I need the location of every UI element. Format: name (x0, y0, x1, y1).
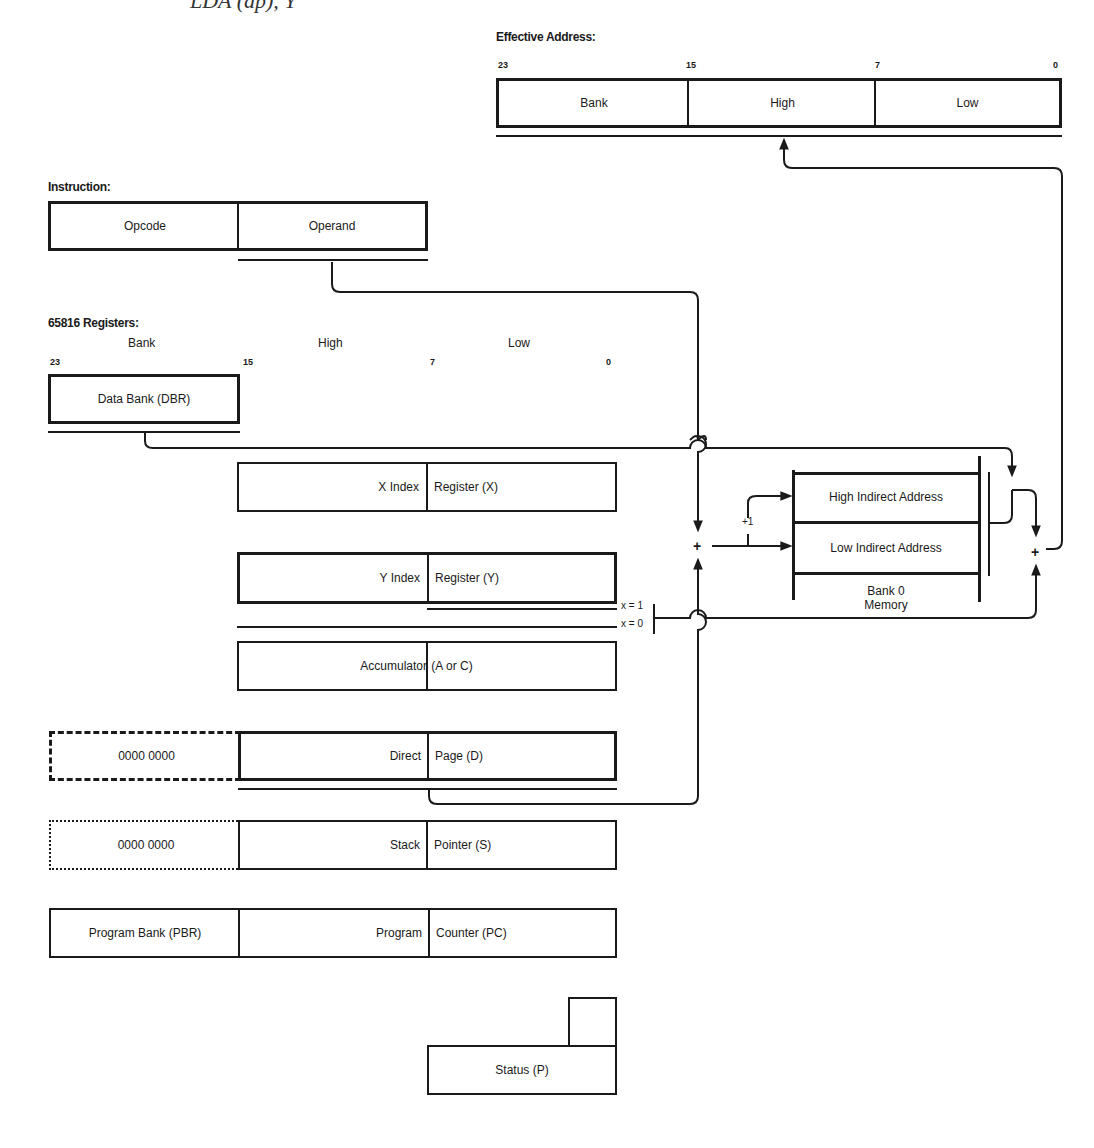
data-flow-wires (0, 0, 1094, 1148)
